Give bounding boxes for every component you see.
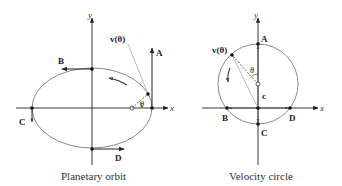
label-B: B [58, 56, 64, 66]
velocity-point [146, 92, 150, 96]
caption-planetary-orbit: Planetary orbit [61, 170, 126, 182]
y-axis-label: y [87, 10, 92, 20]
x-axis-label: x [169, 103, 174, 113]
velocity-label: v(θ) [110, 34, 125, 44]
y-axis-label: y [253, 10, 258, 20]
velocity-leader-line [128, 44, 148, 94]
caption-velocity-circle: Velocity circle [229, 170, 293, 182]
point-C [30, 106, 34, 110]
point-D [90, 147, 94, 151]
planetary-orbit-panel: y x A B C D v(θ) θ [16, 10, 174, 165]
direction-arrow [109, 78, 127, 85]
point-D [288, 106, 292, 110]
direction-arrow [228, 68, 230, 82]
center-point [256, 82, 260, 86]
angle-label: θ [250, 66, 254, 75]
radius-dashed [232, 55, 258, 84]
label-C: C [19, 117, 26, 127]
origin-point [256, 106, 260, 110]
point-A [150, 106, 154, 110]
velocity-point [230, 53, 234, 57]
center-label: c [262, 91, 266, 101]
diagram-canvas: y x A B C D v(θ) θ y x A [0, 0, 342, 186]
angle-label: θ [140, 100, 144, 109]
label-A: A [261, 34, 268, 44]
label-C: C [261, 128, 268, 138]
label-B: B [222, 113, 228, 123]
label-D: D [289, 113, 296, 123]
velocity-vector-line [232, 55, 258, 108]
label-A: A [156, 48, 163, 58]
point-A [256, 42, 260, 46]
label-D: D [115, 153, 122, 163]
point-C [256, 122, 260, 126]
point-B [90, 67, 94, 71]
x-axis-label: x [319, 103, 324, 113]
velocity-label: v(θ) [212, 45, 227, 55]
point-B [225, 106, 229, 110]
velocity-circle-panel: y x A B C D v(θ) θ c [202, 10, 324, 165]
